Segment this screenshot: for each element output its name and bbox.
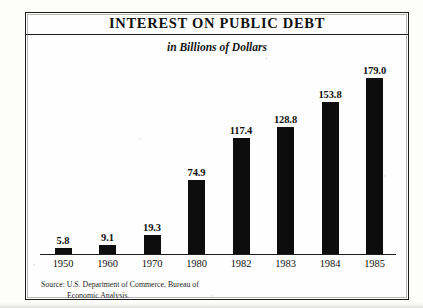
x-axis-labels: 19501960197019801982198319841985 [40,258,396,274]
x-tick-label: 1983 [264,258,308,269]
x-tick-label: 1982 [219,258,263,269]
x-tick-label: 1960 [86,258,130,269]
bar-group[interactable]: 179.0 [353,58,397,254]
chart-page: CHART 11 INTEREST ON PUBLIC DEBT in Bill… [0,0,423,308]
bar-group[interactable]: 128.8 [264,58,308,254]
bar-slot: 9.1 [86,58,130,254]
bar-value-label: 179.0 [363,65,386,76]
subtitle-band: in Billions of Dollars [26,35,408,59]
scan-edge-shadow [0,303,423,308]
chart-frame: INTEREST ON PUBLIC DEBT in Billions of D… [25,12,409,300]
title-band: INTEREST ON PUBLIC DEBT [26,13,408,35]
bar[interactable] [366,78,383,254]
x-axis-line [40,254,396,255]
bar-slot: 74.9 [175,58,219,254]
bar-value-label: 5.8 [57,235,70,246]
bar-value-label: 19.3 [143,222,161,233]
plot-area: 5.89.119.374.9117.4128.8153.8179.0 [40,59,396,255]
x-tick-label: 1950 [41,258,85,269]
bar[interactable] [233,138,250,253]
bar[interactable] [322,102,339,253]
x-tick-label: 1970 [130,258,174,269]
x-tick-label: 1984 [308,258,352,269]
bar-value-label: 74.9 [188,167,206,178]
bar-group[interactable]: 117.4 [219,58,263,254]
bar-group[interactable]: 19.3 [130,58,174,254]
source-note: Source: U.S. Department of Commerce, Bur… [41,280,341,301]
bar-value-label: 153.8 [318,89,341,100]
bar-group[interactable]: 153.8 [308,58,352,254]
bar-slot: 5.8 [41,58,85,254]
bar-value-label: 117.4 [230,125,253,136]
bar-group[interactable]: 9.1 [86,58,130,254]
chart-subtitle: in Billions of Dollars [167,41,267,53]
bar[interactable] [277,127,294,254]
bar[interactable] [99,245,116,254]
bar-value-label: 9.1 [101,232,114,243]
source-line-2: Economic Analysis. [41,291,341,302]
bar[interactable] [188,180,205,254]
bar-slot: 128.8 [264,58,308,254]
x-tick-label: 1985 [353,258,397,269]
bar-slot: 179.0 [353,58,397,254]
bar-slot: 153.8 [308,58,352,254]
bar-slot: 19.3 [130,58,174,254]
x-tick-label: 1980 [175,258,219,269]
source-line-1: Source: U.S. Department of Commerce, Bur… [41,280,341,291]
bar[interactable] [55,248,72,254]
bar-group[interactable]: 5.8 [41,58,85,254]
bar[interactable] [144,235,161,254]
bar-slot: 117.4 [219,58,263,254]
chart-title: INTEREST ON PUBLIC DEBT [109,15,325,32]
bar-group[interactable]: 74.9 [175,58,219,254]
bar-value-label: 128.8 [274,114,297,125]
